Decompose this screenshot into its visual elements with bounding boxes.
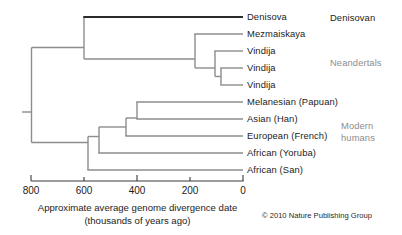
tree-branches xyxy=(22,17,243,170)
group-label-modern-line2: humans xyxy=(341,132,375,143)
tip-label-mezmaiskaya: Mezmaiskaya xyxy=(247,29,305,38)
axis-group xyxy=(31,175,244,181)
tip-label-melanesian: Melanesian (Papuan) xyxy=(247,97,338,106)
copyright-notice: © 2010 Nature Publishing Group xyxy=(262,212,372,220)
axis-tick-label-600: 400 xyxy=(117,186,157,196)
tree-diagram-svg xyxy=(0,0,402,235)
tip-label-san: African (San) xyxy=(247,165,303,174)
phylogenetic-tree-figure: Denisova Mezmaiskaya Vindija Vindija Vin… xyxy=(0,0,402,235)
tip-label-vindija-3: Vindija xyxy=(247,80,276,89)
group-label-modern-line1: Modern xyxy=(341,120,373,131)
group-label-neandertals: Neandertals xyxy=(330,57,382,69)
tip-label-asian: Asian (Han) xyxy=(247,114,298,123)
axis-caption-line2: (thousands of years ago) xyxy=(20,215,255,227)
axis-tick-label-400: 200 xyxy=(170,186,210,196)
tip-label-vindija-1: Vindija xyxy=(247,46,276,55)
axis-tick-label-0: 0 xyxy=(223,186,263,196)
tip-label-european: European (French) xyxy=(247,131,327,140)
group-label-denisovan: Denisovan xyxy=(330,12,375,24)
tip-label-vindija-2: Vindija xyxy=(247,63,276,72)
axis-tick-label-800: 800 xyxy=(11,186,51,196)
tip-label-denisova: Denisova xyxy=(247,12,287,21)
axis-caption-line1: Approximate average genome divergence da… xyxy=(20,202,255,214)
tip-label-yoruba: African (Yoruba) xyxy=(247,148,316,157)
group-label-modern-humans: Modern humans xyxy=(341,120,375,144)
axis-tick-label-700-slot: 600 xyxy=(64,186,104,196)
